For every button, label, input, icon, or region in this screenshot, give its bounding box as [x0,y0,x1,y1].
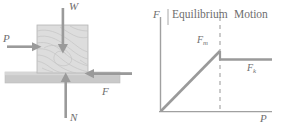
free-body-diagram-panel: W P F N [0,0,141,130]
applied-force-label: P [3,33,10,44]
maximum-static-friction-label: Fm [197,35,208,46]
normal-force-label: N [70,112,77,123]
friction-force-label: F [102,86,109,97]
x-axis-label: P [260,113,267,124]
friction-graph-panel: F Equilibrium Motion Fm Fk P [141,0,283,130]
kinetic-friction-label: Fk [247,63,256,74]
fm-subscript: m [203,39,208,46]
region-motion-label: Motion [234,9,268,21]
fk-subscript: k [253,67,256,74]
static-friction-curve [161,51,220,111]
physics-friction-figure: W P F N F Equilibrium Motion Fm Fk P [0,0,283,130]
y-axis-label: F [153,9,160,20]
region-equilibrium-label: Equilibrium [172,9,228,21]
weight-force-label: W [69,1,78,12]
applied-force-arrow [7,42,42,51]
